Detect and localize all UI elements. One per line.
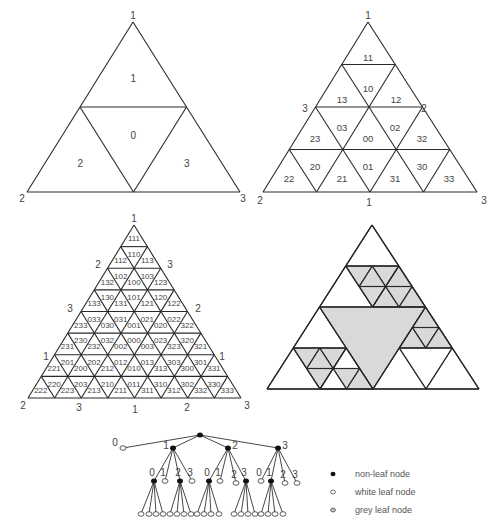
white-leaf-node (265, 512, 271, 517)
branch-label: 2 (231, 469, 237, 480)
cell-label: 220 (47, 380, 61, 389)
white-leaf-node (194, 512, 200, 517)
cell-label: 232 (87, 342, 101, 351)
cell-label: 02 (390, 122, 401, 133)
white-leaf-node (189, 479, 195, 484)
cell-label: 3 (184, 158, 190, 169)
vertex-label: 1 (365, 10, 371, 21)
non-leaf-node (275, 446, 281, 451)
cell-label: 32 (417, 133, 428, 144)
cell-label: 302 (181, 380, 195, 389)
cell-label: 33 (444, 173, 455, 184)
cell-label: 100 (127, 278, 141, 287)
cell-label: 013 (141, 358, 155, 367)
non-leaf-node (206, 479, 212, 484)
branch-label: 3 (241, 467, 247, 478)
triangle-level-1: 1023123 (19, 10, 246, 204)
legend-label: grey leaf node (355, 505, 412, 515)
white-leaf-node (174, 512, 180, 517)
non-leaf-node (268, 479, 274, 484)
white-leaf-node (231, 512, 237, 517)
non-leaf-node (225, 446, 231, 451)
legend-label: non-leaf node (355, 469, 410, 479)
white-leaf-node (252, 512, 258, 517)
white-leaf-node (282, 481, 288, 486)
branch-label: 0 (149, 467, 155, 478)
cell-label: 202 (87, 358, 101, 367)
cell-label: 201 (61, 358, 75, 367)
cell-label: 012 (114, 358, 128, 367)
cell-label: 002 (114, 342, 128, 351)
triangle-level-2: 11101312230300023222202101313033132213 (257, 10, 487, 208)
non-leaf-node (170, 446, 176, 451)
white-leaf-node (201, 512, 207, 517)
cell-label: 331 (207, 364, 221, 373)
white-leaf-node (272, 512, 278, 517)
branch-label: 1 (163, 440, 169, 451)
cell-label: 313 (154, 364, 168, 373)
white-leaf-node (208, 512, 214, 517)
branch-label: 0 (256, 467, 262, 478)
non-leaf-node (243, 479, 249, 484)
cell-label: 122 (167, 299, 181, 308)
cell-label: 233 (74, 321, 88, 330)
branch-label: 2 (175, 467, 181, 478)
cell-label: 033 (87, 315, 101, 324)
white-leaf-node (258, 479, 264, 484)
legend-grey-leaf-icon (331, 508, 336, 512)
cell-label: 311 (141, 386, 154, 395)
branch-label: 2 (280, 469, 286, 480)
vertex-label: 1 (366, 197, 372, 208)
white-leaf-node (217, 479, 223, 484)
vertex-label: 1 (219, 351, 225, 362)
vertex-label: 1 (43, 351, 49, 362)
cell-label: 032 (101, 336, 115, 345)
non-leaf-node (197, 433, 203, 438)
cell-label: 200 (74, 364, 88, 373)
cell-label: 1 (130, 73, 136, 84)
vertex-label: 1 (132, 404, 138, 415)
vertex-label: 1 (130, 10, 136, 21)
cell-label: 31 (390, 173, 401, 184)
cell-label: 010 (127, 364, 141, 373)
vertex-label: 2 (257, 195, 263, 206)
white-leaf-node (188, 512, 194, 517)
branch-label: 3 (282, 440, 288, 451)
cell-label: 103 (141, 272, 155, 281)
triangle-adaptive-subdivision (267, 225, 479, 389)
vertex-label: 3 (244, 400, 250, 411)
legend-label: white leaf node (354, 487, 416, 497)
tree-legend: non-leaf nodewhite leaf nodegrey leaf no… (331, 469, 416, 515)
cell-label: 110 (128, 250, 141, 259)
cell-label: 20 (310, 161, 321, 172)
vertex-label: 3 (302, 103, 308, 114)
cell-label: 023 (154, 336, 168, 345)
cell-label: 332 (194, 386, 208, 395)
white-leaf-node (258, 512, 264, 517)
cell-label: 213 (87, 386, 101, 395)
quadtree-diagram: 0123012301230123 (112, 433, 300, 517)
branch-label: 0 (204, 467, 210, 478)
white-leaf-node (153, 512, 159, 517)
vertex-label: 2 (195, 303, 201, 314)
cell-label: 133 (87, 299, 101, 308)
cell-label: 131 (114, 299, 128, 308)
cell-label: 22 (284, 173, 295, 184)
vertex-label: 2 (95, 259, 101, 270)
cell-label: 011 (128, 380, 141, 389)
cell-label: 101 (127, 293, 141, 302)
cell-label: 211 (114, 386, 127, 395)
cell-label: 222 (34, 386, 48, 395)
cell-label: 310 (154, 380, 168, 389)
cell-label: 030 (101, 321, 115, 330)
branch-label: 2 (232, 440, 238, 451)
cell-label: 210 (101, 380, 115, 389)
vertex-label: 3 (76, 402, 82, 413)
cell-label: 111 (128, 234, 141, 243)
vertex-label: 1 (131, 213, 137, 224)
cell-label: 01 (363, 161, 374, 172)
cell-label: 231 (61, 342, 75, 351)
cell-label: 212 (101, 364, 115, 373)
cell-label: 230 (74, 336, 88, 345)
cell-label: 020 (154, 321, 168, 330)
